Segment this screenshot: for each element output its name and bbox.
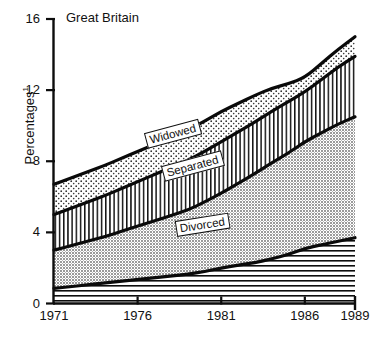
x-tick-label: 1989 [327,308,381,323]
y-tick-label: 8 [14,153,40,168]
page-title: Great Britain [66,10,139,25]
y-tick-label: 4 [14,224,40,239]
y-tick-label: 12 [14,82,40,97]
y-tick-label: 16 [14,11,40,26]
x-tick-label: 1971 [26,308,82,323]
x-tick-label: 1986 [277,308,333,323]
x-tick-label: 1981 [193,308,249,323]
chart-container: Great Britain Percentages1 0481216 19711… [0,0,381,340]
x-tick-label: 1976 [110,308,166,323]
